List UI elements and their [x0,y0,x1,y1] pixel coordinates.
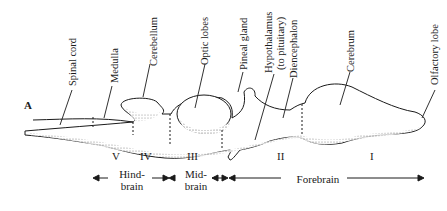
label-hypothalamus: Hypothalamus [263,12,274,73]
label-cerebrum: Cerebrum [345,30,356,72]
region-hindbrain-line2: brain [114,180,150,192]
region-midbrain-line1: Mid- [180,168,212,180]
segment-i: I [370,150,374,162]
label-spinal-cord: Spinal cord [67,38,78,86]
region-hindbrain: Hind- brain [114,168,150,192]
label-olfactory-lobe: Olfactory lobe [429,24,440,85]
label-medulla: Medulla [109,48,120,83]
region-midbrain: Mid- brain [180,168,212,192]
segment-iv: IV [140,150,152,162]
brain-diagram [0,0,447,211]
segment-iii: III [187,150,198,162]
segment-v: V [112,150,120,162]
panel-letter: A [24,99,32,111]
label-pineal-gland: Pineal gland [238,18,249,70]
label-diencephalon: Diencephalon [288,20,299,78]
label-cerebellum: Cerebellum [148,17,159,66]
segment-ii: II [277,150,284,162]
label-optic-lobes: Optic lobes [199,17,210,65]
region-midbrain-line2: brain [180,180,212,192]
label-hypothalamus-sub: (to pituitary) [275,17,286,70]
region-hindbrain-line1: Hind- [114,168,150,180]
region-forebrain: Forebrain [290,173,346,185]
